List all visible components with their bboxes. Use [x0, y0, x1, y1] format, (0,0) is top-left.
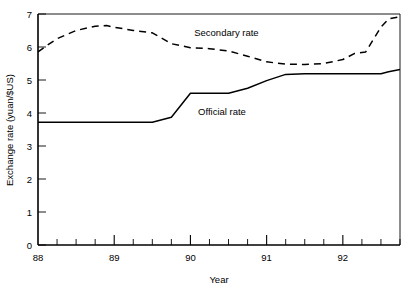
exchange-rate-chart: 01234567 8889909192 Secondary rateOffici…: [0, 0, 413, 289]
x-axis-tick-label: 90: [185, 252, 196, 263]
series-label-secondary-rate: Secondary rate: [194, 27, 258, 38]
y-axis-tick-label: 3: [27, 141, 32, 152]
x-axis-tick-label: 89: [109, 252, 120, 263]
series-label-official-rate: Official rate: [198, 106, 246, 117]
y-axis-tick-label: 6: [27, 42, 32, 53]
y-axis-tick-label: 0: [27, 240, 32, 251]
x-axis-tick-label: 92: [338, 252, 349, 263]
series-annotations: Secondary rateOfficial rate: [194, 27, 258, 117]
y-axis-tick-label: 2: [27, 174, 32, 185]
y-axis-tick-label: 7: [27, 9, 32, 20]
y-axis-tick-label: 5: [27, 75, 32, 86]
x-axis-ticks: 8889909192: [33, 235, 400, 263]
x-axis-tick-label: 91: [261, 252, 272, 263]
y-axis-tick-label: 4: [27, 108, 32, 119]
series-line-secondary-rate: [38, 17, 400, 65]
chart-canvas: 01234567 8889909192 Secondary rateOffici…: [0, 0, 413, 289]
y-axis-ticks: 01234567: [27, 9, 46, 251]
x-axis-title: Year: [209, 274, 228, 285]
x-axis-tick-label: 88: [33, 252, 44, 263]
plot-frame: [38, 14, 400, 245]
y-axis-tick-label: 1: [27, 207, 32, 218]
y-axis-title: Exchange rate (yuan/$US): [4, 74, 15, 186]
